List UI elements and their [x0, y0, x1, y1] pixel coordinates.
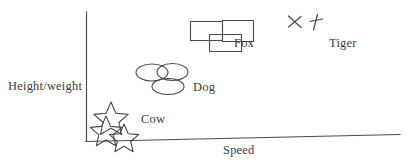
tiger-x-mark-1: [289, 16, 302, 28]
cow-cluster-glyphs: [90, 102, 138, 152]
tiger-x-mark-2: [310, 15, 323, 31]
cluster-label-fox: Fox: [234, 37, 254, 50]
y-axis-label: Height/weight: [8, 80, 82, 93]
chart-canvas: Height/weight Speed Fox Tiger Dog Cow: [0, 0, 415, 168]
x-axis-label: Speed: [223, 144, 255, 157]
dog-ellipse-2: [157, 64, 188, 81]
cluster-label-tiger: Tiger: [329, 37, 357, 50]
x-axis-line: [86, 135, 400, 142]
fox-rectangle-1: [191, 22, 223, 41]
dog-cluster-glyphs: [136, 64, 188, 95]
cow-star-1: [94, 102, 128, 135]
dog-ellipse-3: [152, 79, 184, 95]
cluster-label-cow: Cow: [141, 113, 165, 126]
tiger-cluster-glyphs: [289, 15, 323, 31]
axis-group: [86, 12, 400, 142]
cow-star-3: [109, 124, 138, 152]
cluster-label-dog: Dog: [193, 81, 215, 94]
